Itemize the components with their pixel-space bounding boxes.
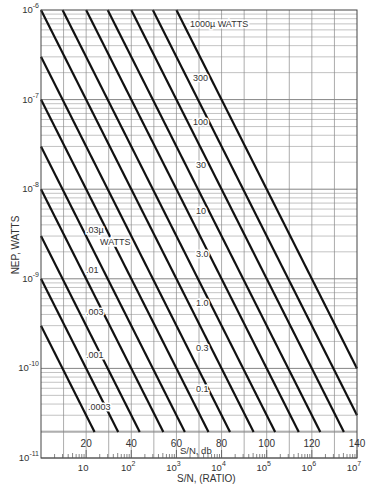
db-tick-label: 20 [81, 438, 93, 449]
line-label: .01 [86, 265, 99, 275]
y-tick-label: 10-11 [19, 450, 39, 463]
line-label: 0.3 [196, 343, 209, 353]
y-tick-label: 10-8 [22, 181, 39, 194]
x-tick-label: 103 [166, 460, 181, 473]
line-label: 1.0 [196, 298, 209, 308]
db-tick-label: 120 [304, 438, 321, 449]
line-label: 300 [193, 73, 208, 83]
x-tick-label: 10 [78, 462, 89, 473]
y-tick-label: 10-9 [22, 271, 39, 284]
y-axis-label: NEP, WATTS [10, 215, 21, 274]
line-label: .03µ [86, 225, 104, 235]
line-label: .003 [86, 307, 104, 317]
power-line [153, 10, 357, 415]
line-label: 100 [193, 117, 208, 127]
line-label: .0003 [88, 402, 111, 412]
x-axis-label: S/N, (RATIO) [177, 473, 236, 484]
db-tick-label: 40 [126, 438, 138, 449]
x-tick-label: 104 [211, 460, 226, 473]
x-tick-label: 105 [256, 460, 271, 473]
line-label: 30 [196, 160, 206, 170]
line-label: 3.0 [196, 249, 209, 259]
nep-vs-snr-chart: .0003.001.003.01.03µWATTS0.10.31.03.0103… [0, 0, 375, 488]
db-tick-label: 80 [216, 438, 228, 449]
y-tick-label: 10-6 [22, 2, 39, 15]
x-tick-label: 107 [347, 460, 362, 473]
y-tick-label: 10-10 [18, 360, 39, 373]
db-tick-label: 100 [258, 438, 275, 449]
db-axis-label: S/N, db [180, 445, 212, 456]
line-label: .001 [86, 350, 104, 360]
y-tick-label: 10-7 [22, 92, 39, 105]
line-label: 1000µ WATTS [190, 19, 248, 29]
x-tick-label: 102 [121, 460, 136, 473]
line-label: 0.1 [196, 384, 209, 394]
db-tick-label: 140 [349, 438, 366, 449]
line-label-unit: WATTS [100, 237, 131, 247]
x-tick-label: 106 [302, 460, 317, 473]
line-label: 10 [196, 206, 206, 216]
